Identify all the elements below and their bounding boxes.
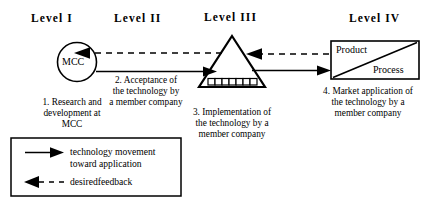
caption-step-4-line-2: the technology by a [313, 97, 423, 108]
legend-solid-label: technology movement toward application [70, 146, 156, 169]
caption-step-2-line-1: 2. Acceptance of [93, 75, 199, 86]
level-header-3: Level III [204, 11, 257, 23]
caption-step-3-line-2: the technology by a [170, 118, 294, 129]
level-header-2: Level II [114, 12, 161, 24]
caption-step-3: 3. Implementation of the technology by a… [170, 107, 294, 141]
caption-step-2: 2. Acceptance of the technology by a mem… [93, 75, 199, 109]
product-label: Product [336, 44, 367, 55]
level-header-4: Level IV [349, 12, 400, 24]
legend-solid-line-1: technology movement [70, 146, 156, 158]
caption-step-1-line-3: MCC [11, 119, 133, 130]
caption-step-3-line-1: 3. Implementation of [170, 107, 294, 118]
caption-step-4-line-1: 4. Market application of [313, 86, 423, 97]
arrow-feedback-right-dashed [246, 48, 329, 60]
diagram-canvas: Level I Level II Level III Level IV MCC … [0, 0, 424, 203]
legend-dashed-label: desiredfeedback [70, 176, 132, 188]
caption-step-2-line-2: the technology by [93, 86, 199, 97]
arrow-market-solid [252, 66, 331, 76]
level-header-1: Level I [31, 12, 73, 24]
legend-solid-line-2: toward application [70, 158, 156, 170]
caption-step-4-line-3: member company [313, 108, 423, 119]
caption-step-3-line-3: member company [170, 129, 294, 140]
process-label: Process [373, 64, 404, 75]
legend-dashed-line-1: desiredfeedback [70, 176, 132, 188]
mcc-label: MCC [62, 56, 84, 67]
caption-step-1-line-2: development at [11, 108, 133, 119]
caption-step-4: 4. Market application of the technology … [313, 86, 423, 120]
member-company-squares [208, 79, 257, 86]
